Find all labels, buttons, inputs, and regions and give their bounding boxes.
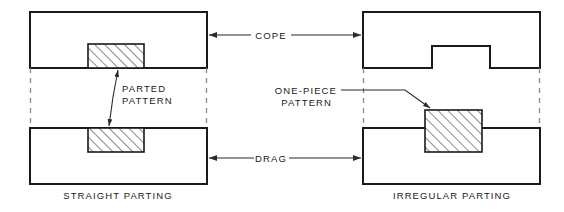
one-piece-pattern-leader — [341, 90, 430, 108]
casting-parting-diagram: COPE DRAG PARTED PATTERN ONE-PIECE PATTE… — [0, 0, 564, 212]
one-piece-pattern-callout: ONE-PIECE PATTERN — [275, 85, 430, 109]
caption-straight-parting: STRAIGHT PARTING — [63, 190, 172, 201]
parted-pattern-leader-up — [113, 70, 118, 97]
parted-pattern-callout: PARTED PATTERN — [109, 70, 173, 126]
parted-pattern-drag-half — [88, 128, 144, 152]
drag-callout: DRAG — [209, 153, 361, 164]
parted-pattern-cope-half — [88, 44, 144, 68]
parted-pattern-leader-down — [109, 97, 113, 126]
one-piece-pattern-block — [425, 110, 482, 152]
figure-canvas: COPE DRAG PARTED PATTERN ONE-PIECE PATTE… — [0, 0, 564, 212]
parted-pattern-label-line2: PATTERN — [122, 95, 173, 106]
parted-pattern-label-line1: PARTED — [122, 83, 166, 94]
straight-parting-assembly — [30, 12, 207, 184]
right-cope-box-notched — [363, 12, 540, 68]
one-piece-pattern-label-line2: PATTERN — [281, 97, 332, 108]
cope-label: COPE — [255, 30, 286, 41]
one-piece-pattern-label-line1: ONE-PIECE — [275, 85, 337, 96]
cope-callout: COPE — [209, 30, 361, 41]
caption-irregular-parting: IRREGULAR PARTING — [393, 190, 511, 201]
drag-label: DRAG — [255, 153, 287, 164]
irregular-parting-assembly — [363, 12, 540, 184]
